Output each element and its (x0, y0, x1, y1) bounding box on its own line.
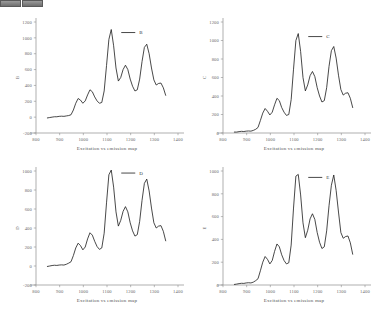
x-tick-label: 900 (56, 137, 64, 142)
y-tick-label: 1200 (209, 20, 219, 25)
x-tick-label: 1200 (126, 137, 136, 142)
x-tick-label: 1300 (336, 289, 346, 294)
y-axis-title: D (15, 226, 20, 230)
y-tick-label: 0 (30, 115, 33, 120)
x-tick-label: 800 (32, 289, 40, 294)
y-tick-label: 200 (25, 245, 33, 250)
y-tick-label: -200 (23, 131, 33, 136)
y-tick-label: 600 (212, 214, 220, 219)
y-tick-label: 1000 (22, 169, 32, 174)
x-tick-label: 1200 (126, 289, 136, 294)
y-tick-label: 600 (212, 75, 220, 80)
y-tick-label: 800 (212, 57, 220, 62)
chart-panel-e[interactable]: 0200400600800100080090010001100120013001… (187, 157, 374, 313)
y-tick-label: 600 (25, 67, 33, 72)
chart-svg-e: 0200400600800100080090010001100120013001… (187, 157, 374, 313)
y-tick-label: 1000 (22, 36, 32, 41)
y-axis-title: E (202, 226, 207, 229)
y-tick-label: 200 (25, 99, 33, 104)
x-tick-label: 1000 (265, 137, 275, 142)
x-tick-label: 800 (32, 137, 40, 142)
legend-label: C (326, 34, 330, 39)
x-tick-label: 900 (243, 289, 251, 294)
y-tick-label: 400 (25, 226, 33, 231)
x-tick-label: 1400 (360, 289, 370, 294)
y-tick-label: 200 (212, 112, 220, 117)
x-tick-label: 1000 (78, 137, 88, 142)
x-tick-label: 1300 (149, 289, 159, 294)
chart-panel-c[interactable]: 0200400600800100012008009001000110012001… (187, 0, 374, 157)
chart-panel-b[interactable]: -200020040060080010001200800900100011001… (0, 0, 187, 157)
y-tick-label: 400 (212, 94, 220, 99)
y-tick-label: 1000 (209, 38, 219, 43)
x-tick-label: 1200 (313, 137, 323, 142)
data-series-line (47, 30, 165, 118)
data-series-line (234, 174, 352, 284)
x-axis-title: Excitation vs emission map (264, 298, 325, 303)
y-tick-label: 0 (30, 264, 33, 269)
y-tick-label: 1000 (209, 169, 219, 174)
x-tick-label: 1100 (289, 289, 299, 294)
y-axis-title: C (202, 76, 207, 79)
y-tick-label: 1200 (22, 20, 32, 25)
y-tick-label: 800 (212, 192, 220, 197)
y-tick-label: -200 (23, 283, 33, 288)
legend-label: E (326, 175, 329, 180)
legend-label: B (139, 30, 143, 35)
x-tick-label: 1400 (173, 289, 183, 294)
y-tick-label: 600 (25, 207, 33, 212)
x-tick-label: 1000 (78, 289, 88, 294)
x-tick-label: 1300 (336, 137, 346, 142)
x-axis-title: Excitation vs emission map (264, 146, 325, 151)
y-tick-label: 400 (25, 83, 33, 88)
chart-panel-d[interactable]: -200020040060080010008009001000110012001… (0, 157, 187, 313)
x-tick-label: 1100 (289, 137, 299, 142)
chart-svg-b: -200020040060080010001200800900100011001… (0, 0, 187, 157)
chart-svg-d: -200020040060080010008009001000110012001… (0, 157, 187, 313)
data-series-line (234, 34, 352, 133)
x-axis-title: Excitation vs emission map (77, 298, 138, 303)
y-tick-label: 800 (25, 188, 33, 193)
y-axis-title: B (15, 76, 20, 79)
x-tick-label: 1300 (149, 137, 159, 142)
chart-svg-c: 0200400600800100012008009001000110012001… (187, 0, 374, 157)
x-tick-label: 800 (219, 289, 227, 294)
figure-grid: -200020040060080010001200800900100011001… (0, 0, 374, 313)
toolbar (0, 0, 43, 7)
x-tick-label: 1100 (102, 289, 112, 294)
data-series-line (47, 170, 165, 266)
x-tick-label: 1100 (102, 137, 112, 142)
legend-label: D (139, 171, 143, 176)
x-tick-label: 900 (56, 289, 64, 294)
x-axis-title: Excitation vs emission map (77, 146, 138, 151)
x-tick-label: 1000 (265, 289, 275, 294)
x-tick-label: 1200 (313, 289, 323, 294)
x-tick-label: 800 (219, 137, 227, 142)
toolbar-chip-1-button[interactable] (0, 0, 21, 7)
y-tick-label: 400 (212, 237, 220, 242)
x-tick-label: 1400 (360, 137, 370, 142)
y-tick-label: 200 (212, 260, 220, 265)
x-tick-label: 1400 (173, 137, 183, 142)
toolbar-chip-2-button[interactable] (22, 0, 43, 7)
y-tick-label: 800 (25, 51, 33, 56)
x-tick-label: 900 (243, 137, 251, 142)
